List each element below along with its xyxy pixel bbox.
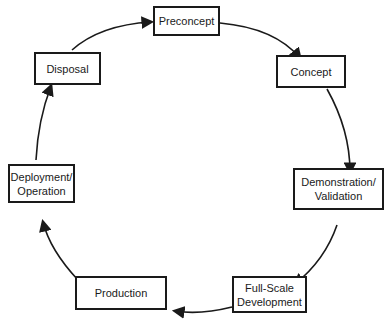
- stage-label: Validation: [315, 189, 363, 203]
- stage-label: Concept: [291, 65, 332, 79]
- stage-label: Development: [237, 295, 302, 309]
- stage-production: Production: [75, 276, 167, 310]
- stage-preconcept: Preconcept: [153, 6, 220, 36]
- arrow-disposal-to-preconcept: [72, 22, 151, 50]
- stage-label: Deployment/: [11, 170, 73, 184]
- arrow-fullscale-to-production: [175, 307, 232, 312]
- stage-deployment-operation: Deployment/ Operation: [8, 164, 75, 203]
- stage-label: Preconcept: [159, 14, 215, 28]
- arrow-concept-to-demonstration: [327, 89, 350, 172]
- stage-label: Disposal: [46, 62, 88, 76]
- stage-disposal: Disposal: [34, 52, 101, 85]
- stage-label: Full-Scale: [245, 281, 294, 295]
- stage-label: Production: [95, 286, 148, 300]
- stage-label: Operation: [17, 184, 65, 198]
- arrow-deployment-to-disposal: [36, 86, 51, 160]
- cycle-arrows: [0, 0, 384, 320]
- stage-full-scale-development: Full-Scale Development: [232, 276, 307, 313]
- arrow-production-to-deployment: [43, 222, 78, 280]
- stage-concept: Concept: [276, 55, 346, 88]
- arrow-preconcept-to-concept: [220, 23, 300, 58]
- stage-demonstration-validation: Demonstration/ Validation: [293, 168, 384, 210]
- stage-label: Demonstration/: [301, 175, 376, 189]
